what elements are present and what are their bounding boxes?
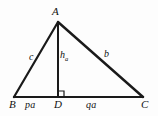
- altitude-label: ha: [60, 50, 68, 63]
- vertex-label-c: C: [141, 99, 148, 110]
- side-label-b: b: [104, 49, 109, 59]
- side-label-c: c: [29, 52, 33, 62]
- side-line-ab: [14, 22, 58, 97]
- triangle-diagram-svg: [0, 0, 158, 116]
- figure-canvas: A B C D c b ha pa qa: [0, 0, 158, 116]
- foot-label-d: D: [54, 99, 62, 110]
- side-line-ac: [58, 22, 143, 97]
- altitude-label-subscript: a: [65, 55, 68, 62]
- segment-label-bd: pa: [25, 100, 36, 110]
- vertex-label-b: B: [9, 99, 16, 110]
- vertex-label-a: A: [52, 6, 59, 17]
- segment-label-dc: qa: [86, 100, 97, 110]
